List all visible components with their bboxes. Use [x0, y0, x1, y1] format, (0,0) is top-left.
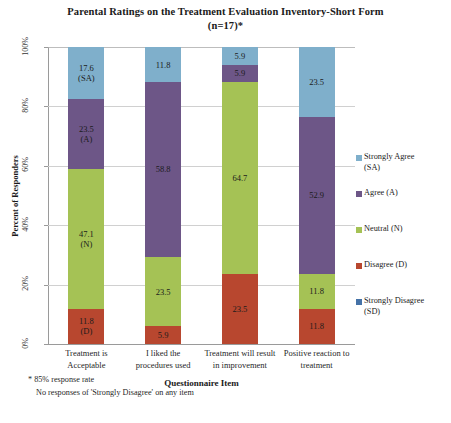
legend-item-label: Agree (A) — [364, 188, 398, 199]
bar-column[interactable]: 11.811.852.923.5 — [299, 47, 335, 344]
bar-value-label: 23.5 — [232, 304, 247, 314]
bar-segment-sa[interactable]: 17.6(SA) — [68, 47, 104, 99]
chart-title-line-2: (n=17)* — [0, 19, 451, 33]
bar-value-label: 11.8 — [309, 286, 324, 296]
bar-segment-a[interactable]: 5.9 — [222, 65, 258, 83]
bar-segment-d[interactable]: 5.9 — [145, 326, 181, 344]
bar-value-label: 23.5 — [156, 287, 171, 297]
y-axis-tick-label: 20% — [18, 271, 32, 297]
x-axis-category-label: Positive reaction totreatment — [270, 348, 363, 371]
bar-category-key-label: (A) — [80, 134, 92, 144]
bar-value-label: 23.5 — [309, 77, 324, 87]
bar-segment-a[interactable]: 58.8 — [145, 82, 181, 257]
bar-category-key-label: (N) — [80, 239, 92, 249]
bar-value-label: 5.9 — [235, 51, 246, 61]
y-axis-tick-label: 0% — [18, 330, 32, 356]
bar-value-label: 11.8 — [156, 60, 171, 70]
bar-value-label: 5.9 — [158, 330, 169, 340]
legend-item-label: Neutral (N) — [364, 224, 402, 235]
footnote-no-strongly-disagree: No responses of 'Strongly Disagree' on a… — [28, 387, 278, 400]
bar-column[interactable]: 23.564.75.95.9 — [222, 47, 258, 344]
y-axis-tick-label: 100% — [18, 33, 32, 59]
y-axis-tick-label: 80% — [18, 92, 32, 118]
bar-segment-d[interactable]: 11.8(D) — [68, 309, 104, 344]
bar-value-label: 52.9 — [309, 190, 324, 200]
legend-item[interactable]: Neutral (N) — [356, 224, 451, 260]
chart-footnotes: * 85% response rate No responses of 'Str… — [28, 374, 278, 399]
bar-series-layer: 11.8(D)47.1(N)23.5(A)17.6(SA)5.923.558.8… — [48, 47, 355, 344]
bar-value-label: 17.6 — [79, 63, 94, 73]
chart-title: Parental Ratings on the Treatment Evalua… — [0, 5, 451, 33]
legend-color-swatch — [356, 299, 362, 305]
legend-item-label: Disagree (D) — [364, 260, 407, 271]
bar-column[interactable]: 11.8(D)47.1(N)23.5(A)17.6(SA) — [68, 47, 104, 344]
bar-column[interactable]: 5.923.558.811.8 — [145, 47, 181, 344]
chart-container: Parental Ratings on the Treatment Evalua… — [0, 0, 451, 423]
bar-value-label: 11.8 — [79, 316, 94, 326]
bar-segment-a[interactable]: 52.9 — [299, 117, 335, 274]
bar-segment-sa[interactable]: 11.8 — [145, 47, 181, 82]
bar-value-label: 64.7 — [232, 173, 247, 183]
footnote-response-rate: * 85% response rate — [28, 374, 278, 387]
legend-item[interactable]: Agree (A) — [356, 188, 451, 224]
legend-item[interactable]: Strongly Disagree (SD) — [356, 296, 451, 332]
chart-title-line-1: Parental Ratings on the Treatment Evalua… — [0, 5, 451, 19]
bar-segment-a[interactable]: 23.5(A) — [68, 99, 104, 169]
bar-segment-n[interactable]: 23.5 — [145, 257, 181, 327]
bar-value-label: 11.8 — [309, 321, 324, 331]
legend-color-swatch — [356, 155, 362, 161]
legend-color-swatch — [356, 227, 362, 233]
bar-segment-d[interactable]: 11.8 — [299, 309, 335, 344]
y-axis-tick-label: 60% — [18, 152, 32, 178]
bar-category-key-label: (D) — [80, 326, 92, 336]
x-axis-label-line: treatment — [270, 360, 363, 372]
bar-category-key-label: (SA) — [78, 73, 95, 83]
bar-value-label: 5.9 — [235, 68, 246, 78]
x-axis-line — [48, 344, 355, 345]
legend-color-swatch — [356, 263, 362, 269]
bar-segment-sa[interactable]: 23.5 — [299, 47, 335, 117]
bar-segment-n[interactable]: 47.1(N) — [68, 169, 104, 309]
bar-segment-n[interactable]: 11.8 — [299, 274, 335, 309]
x-axis-label-line: Positive reaction to — [270, 348, 363, 360]
legend-item[interactable]: Disagree (D) — [356, 260, 451, 296]
bar-value-label: 47.1 — [79, 229, 94, 239]
y-axis-tick-label: 40% — [18, 211, 32, 237]
bar-segment-d[interactable]: 23.5 — [222, 274, 258, 344]
bar-value-label: 58.8 — [156, 164, 171, 174]
plot-area: 11.8(D)47.1(N)23.5(A)17.6(SA)5.923.558.8… — [48, 47, 355, 344]
chart-legend: Strongly Agree (SA)Agree (A)Neutral (N)D… — [356, 152, 451, 332]
bar-segment-sa[interactable]: 5.9 — [222, 47, 258, 65]
bar-value-label: 23.5 — [79, 124, 94, 134]
legend-color-swatch — [356, 191, 362, 197]
legend-item[interactable]: Strongly Agree (SA) — [356, 152, 451, 188]
bar-segment-n[interactable]: 64.7 — [222, 82, 258, 274]
x-axis-category-labels: Treatment isAcceptableI liked theprocedu… — [48, 348, 355, 376]
legend-item-label: Strongly Disagree (SD) — [364, 296, 424, 317]
legend-item-label: Strongly Agree (SA) — [364, 152, 414, 173]
